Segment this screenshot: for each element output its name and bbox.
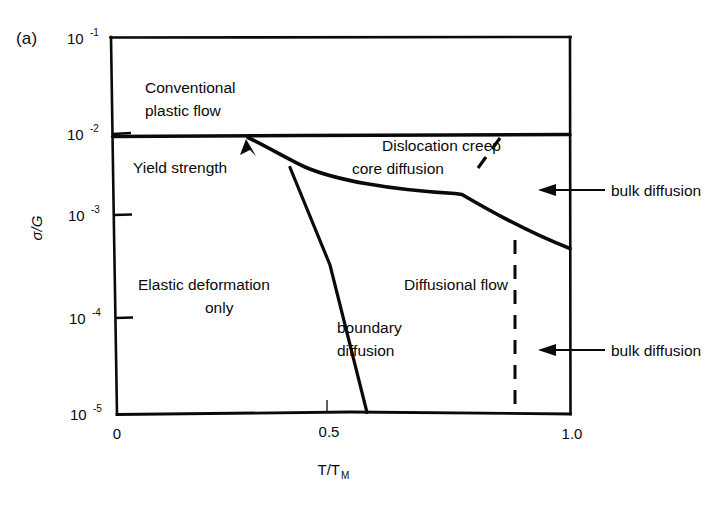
y-tick-label-4: 10 -4 [69, 307, 101, 327]
y-tick-mantissa-1: 10 [67, 30, 84, 47]
y-tick-mantissa-2: 10 [67, 126, 84, 143]
x-axis-title: T/T M [318, 461, 350, 481]
frame-top [111, 37, 571, 38]
arrow-left-icon-upper [538, 184, 556, 196]
label-diffusional-flow: Diffusional flow [404, 276, 509, 293]
y-tick-label-3: 10 -3 [68, 204, 100, 224]
y-tick-1e-2 [113, 133, 132, 134]
arrow-left-icon-lower [538, 344, 556, 356]
y-tick-1e-3 [114, 215, 132, 216]
label-bulk-diffusion-upper: bulk diffusion [611, 182, 701, 199]
curve-dislocation-creep-boundary [248, 138, 570, 249]
frame-bottom-x-axis [117, 412, 571, 415]
label-elastic-deformation-line2: only [205, 299, 234, 316]
label-yield-strength: Yield strength [133, 159, 227, 176]
annotation-bulk-diffusion-upper: bulk diffusion [538, 182, 701, 199]
frame-left-y-axis [111, 37, 117, 415]
panel-label: (a) [16, 29, 37, 48]
y-tick-1e-4 [115, 318, 133, 319]
x-tick-label-0: 0 [113, 425, 121, 442]
deformation-mechanism-map-figure: (a) 10 -1 10 -2 [0, 0, 723, 508]
y-tick-label-5: 10 -5 [70, 403, 102, 423]
chart-svg: (a) 10 -1 10 -2 [0, 0, 723, 508]
x-axis-title-main: T/T [318, 461, 341, 478]
frame-right [570, 37, 571, 414]
x-tick-label-1-0: 1.0 [562, 425, 583, 442]
x-axis-tick-labels: 0 0.5 1.0 [113, 423, 583, 442]
leader-segment-1 [478, 157, 486, 168]
label-elastic-deformation-line1: Elastic deformation [138, 276, 270, 293]
label-boundary-diffusion-line1: boundary [337, 319, 402, 336]
label-dislocation-creep-line2: core diffusion [352, 160, 444, 177]
y-tick-mantissa-4: 10 [69, 310, 86, 327]
label-boundary-diffusion-line2: diffusion [337, 342, 394, 359]
outside-annotations: bulk diffusion bulk diffusion [538, 182, 701, 359]
y-tick-exponent-1: -1 [90, 27, 99, 38]
curve-yield-strength-boundary [113, 135, 571, 137]
annotation-bulk-diffusion-lower: bulk diffusion [538, 342, 701, 359]
y-tick-exponent-5: -5 [93, 403, 102, 414]
y-tick-exponent-3: -3 [91, 204, 100, 215]
y-tick-label-1: 10 -1 [67, 27, 99, 47]
label-conventional-plastic-flow-line1: Conventional [145, 79, 235, 96]
label-bulk-diffusion-lower: bulk diffusion [611, 342, 701, 359]
y-tick-exponent-4: -4 [92, 307, 101, 318]
y-tick-mantissa-3: 10 [68, 207, 85, 224]
x-tick-label-0-5: 0.5 [319, 423, 340, 440]
curve-boundary-diffusion-edge [290, 168, 367, 413]
chart-curves [113, 135, 571, 413]
y-tick-exponent-2: -2 [90, 123, 99, 134]
y-tick-label-2: 10 -2 [67, 123, 99, 143]
region-labels: Conventional plastic flow Yield strength… [133, 79, 509, 359]
y-axis-tick-labels: 10 -1 10 -2 10 -3 10 -4 10 -5 [67, 27, 102, 423]
y-axis-title: σ/G [28, 215, 45, 240]
label-dislocation-creep-line1: Dislocation creep [382, 137, 501, 154]
y-tick-mantissa-5: 10 [70, 406, 87, 423]
x-axis-title-subscript: M [341, 470, 349, 481]
label-conventional-plastic-flow-line2: plastic flow [145, 102, 222, 119]
